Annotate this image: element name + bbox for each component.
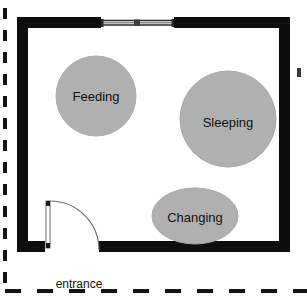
door-opening-gap (45, 241, 99, 252)
door-hinge-top-icon (46, 201, 50, 206)
wall-top-left-segment (17, 17, 101, 28)
zone-feeding-label: Feeding (73, 89, 120, 104)
zone-sleeping[interactable]: Sleeping (180, 71, 276, 167)
door-hinge-bottom-icon (46, 243, 50, 248)
window-jamb-right (172, 19, 175, 27)
zone-feeding[interactable]: Feeding (56, 56, 136, 136)
floor-plan-canvas: Feeding Sleeping Changing entrance (0, 0, 307, 301)
window-jamb-left (101, 19, 104, 27)
wall-top-right-segment (174, 17, 290, 28)
zone-changing[interactable]: Changing (152, 188, 238, 244)
window-centre-mullion (134, 20, 140, 27)
edge-tick-icon (297, 68, 301, 77)
zone-changing-label: Changing (167, 210, 223, 225)
door-leaf-panel[interactable] (46, 201, 50, 248)
wall-right (279, 17, 290, 252)
wall-left (17, 17, 28, 252)
entrance-label: entrance (56, 277, 103, 291)
window-opening (101, 17, 174, 28)
floor-plan-diagram: Feeding Sleeping Changing entrance (0, 0, 307, 301)
wall-bottom-left-stub (17, 241, 45, 252)
zone-sleeping-label: Sleeping (203, 115, 254, 130)
